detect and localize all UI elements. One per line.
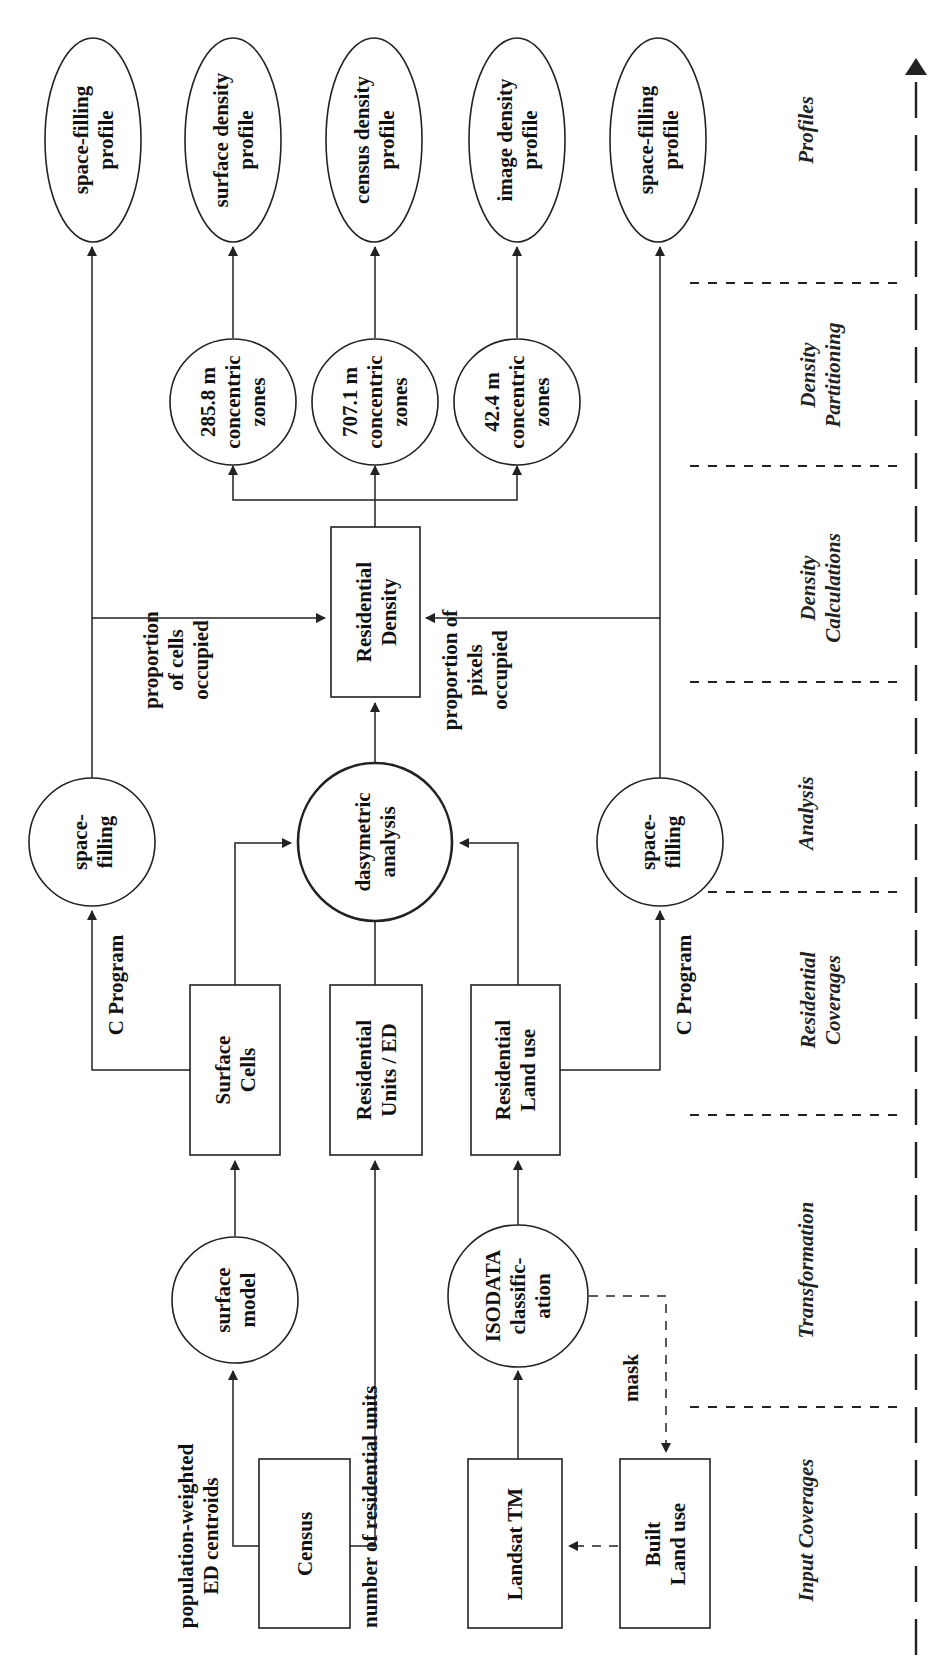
label-line: proportion [139, 611, 163, 709]
label-landsat: Landsat TM [503, 1488, 527, 1600]
label-line: census density [350, 76, 374, 204]
edge-residential-density-zones-285 [233, 466, 375, 500]
edge-label-residential-units: number of residential units [358, 1385, 382, 1628]
label-line: Density [796, 555, 820, 622]
label-residential-units: ResidentialUnits / ED [352, 1020, 401, 1121]
stage-label-transformation: Transformation [794, 1202, 818, 1339]
label-line: zones [246, 378, 270, 427]
label-line: model [236, 1272, 260, 1327]
label-line: Residential [491, 1020, 515, 1121]
label-line: surface [211, 1267, 235, 1332]
label-line: Landsat TM [503, 1488, 527, 1600]
label-line: Land use [666, 1503, 690, 1585]
label-line: concentric [505, 355, 529, 448]
label-line: profile [518, 110, 542, 169]
edge-surface-cells-dasymetric [235, 843, 291, 985]
label-line: mask [619, 1354, 643, 1402]
label-line: space-filling [634, 85, 658, 194]
edge-residential-land-use-space-filling-b [560, 911, 660, 1070]
label-line: profile [94, 110, 118, 169]
label-line: number of residential units [358, 1385, 382, 1628]
label-line: concentric [221, 355, 245, 448]
stage-axis [905, 58, 927, 1655]
label-line: occupied [488, 630, 512, 710]
label-line: zones [388, 378, 412, 427]
label-line: ISODATA [481, 1249, 505, 1342]
label-line: filling [93, 815, 117, 868]
label-line: Analysis [794, 776, 818, 852]
label-line: image density [493, 78, 517, 202]
label-line: Census [293, 1512, 317, 1576]
edge-label-c-program-b: C Program [672, 934, 696, 1035]
label-line: pixels [463, 644, 487, 695]
label-line: 707.1 m [338, 367, 362, 438]
label-space-filling-b: space-filling [636, 814, 685, 870]
label-line: Density [377, 578, 401, 646]
axis-arrow-icon [905, 58, 927, 75]
label-line: 285.8 m [196, 367, 220, 438]
label-line: profile [234, 110, 258, 169]
stage-label-density-partitioning: DensityPartitioning [796, 322, 845, 428]
label-line: dasymetric [351, 792, 375, 891]
labels: Census Landsat TM BuiltLand use surfacem… [68, 72, 845, 1628]
label-line: of cells [164, 629, 188, 690]
label-line: Transformation [794, 1202, 818, 1339]
label-line: concentric [363, 355, 387, 448]
stage-label-density-calculations: DensityCalculations [796, 533, 845, 643]
label-line: Built [641, 1522, 665, 1566]
edge-residential-density-zones-42 [375, 466, 517, 500]
label-census: Census [293, 1512, 317, 1576]
label-surface-model: surfacemodel [211, 1267, 260, 1332]
flowchart-canvas: Census Landsat TM BuiltLand use surfacem… [0, 0, 948, 1680]
label-residential-land-use: ResidentialLand use [491, 1020, 540, 1121]
label-line: ation [531, 1273, 555, 1319]
label-line: Units / ED [377, 1023, 401, 1116]
stage-label-residential-coverages: ResidentialCoverages [796, 951, 845, 1049]
node-residential-density[interactable] [331, 527, 420, 697]
label-line: Coverages [821, 955, 845, 1045]
label-line: Residential [352, 562, 376, 663]
label-line: Land use [516, 1029, 540, 1111]
label-line: ED centroids [199, 1478, 223, 1595]
edge-label-pixels-occupied: proportion ofpixelsoccupied [438, 609, 512, 730]
label-line: Density [796, 342, 820, 409]
label-line: profile [659, 110, 683, 169]
label-line: Cells [236, 1048, 260, 1092]
edge-census-surface-model [233, 1371, 259, 1546]
label-line: space-filling [69, 85, 93, 194]
flowchart-svg: Census Landsat TM BuiltLand use surfacem… [0, 0, 948, 1680]
label-line: Partitioning [821, 322, 845, 428]
edge-label-mask: mask [619, 1354, 643, 1402]
stage-label-analysis: Analysis [794, 776, 818, 852]
label-line: Residential [352, 1020, 376, 1121]
label-line: space- [68, 814, 92, 870]
label-line: Profiles [794, 96, 818, 165]
label-line: Residential [796, 951, 820, 1049]
label-line: C Program [672, 934, 696, 1035]
label-line: zones [530, 378, 554, 427]
label-line: Input Coverages [794, 1459, 818, 1603]
edge-label-c-program-a: C Program [104, 934, 128, 1035]
label-line: 42.4 m [480, 372, 504, 432]
label-line: filling [661, 815, 685, 868]
label-line: occupied [189, 620, 213, 700]
label-line: population-weighted [174, 1444, 198, 1629]
label-dasymetric: dasymetricanalysis [351, 792, 400, 891]
edge-label-centroids: population-weightedED centroids [174, 1444, 223, 1629]
label-line: proportion of [438, 609, 462, 730]
edge-residential-land-use-dasymetric [460, 843, 518, 985]
stage-label-input-coverages: Input Coverages [794, 1459, 818, 1603]
label-line: profile [375, 110, 399, 169]
label-space-filling-a: space-filling [68, 814, 117, 870]
label-line: space- [636, 814, 660, 870]
label-line: C Program [104, 934, 128, 1035]
label-line: surface density [209, 72, 233, 207]
edge-label-cells-occupied: proportionof cellsoccupied [139, 611, 213, 709]
stage-label-profiles: Profiles [794, 96, 818, 165]
label-line: Surface [211, 1036, 235, 1105]
label-line: classific- [506, 1258, 530, 1335]
label-line: Calculations [821, 533, 845, 643]
label-line: analysis [376, 806, 400, 877]
